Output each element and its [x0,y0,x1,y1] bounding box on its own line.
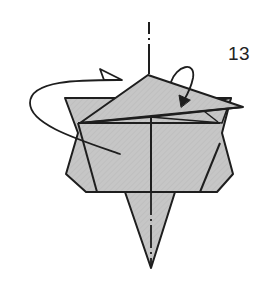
step-number: 13 [228,43,250,65]
origami-diagram: 13 [0,0,267,286]
diagram-svg [0,0,267,286]
bottom-point [125,192,175,268]
